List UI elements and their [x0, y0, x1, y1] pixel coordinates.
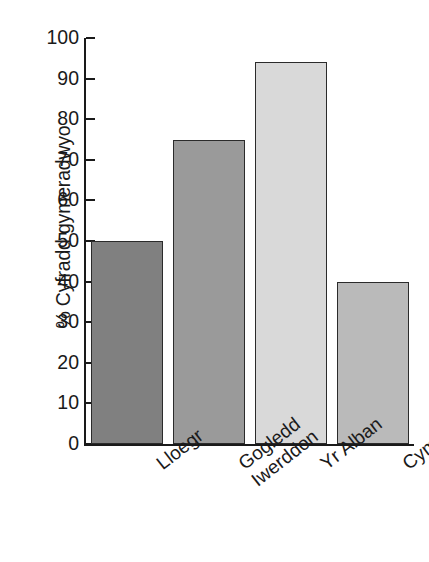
y-tick-label: 100 [46, 28, 79, 48]
y-tick-label: 60 [57, 191, 79, 211]
y-tick-label: 20 [57, 353, 79, 373]
x-tick-label: Yr Alban [317, 458, 330, 474]
y-tick-mark [86, 118, 95, 120]
x-tick-label: GogleddIwerddon [235, 458, 260, 490]
bar-chart-figure: % Cyfradd gymeradwyo 0102030405060708090… [0, 0, 429, 562]
plot-area: 0102030405060708090100 LloegrGogleddIwer… [86, 38, 414, 444]
x-tick-label: Cymru [399, 458, 412, 474]
y-tick-mark [86, 78, 95, 80]
bar [91, 241, 163, 444]
y-tick-label: 0 [68, 434, 79, 454]
y-tick-label: 70 [57, 150, 79, 170]
y-tick-mark [86, 37, 95, 39]
y-tick-label: 30 [57, 312, 79, 332]
y-tick-label: 90 [57, 69, 79, 89]
y-tick-100: 100 [86, 37, 95, 39]
y-tick-70: 70 [86, 159, 95, 161]
y-tick-mark [86, 199, 95, 201]
bar [255, 62, 327, 444]
y-tick-label: 80 [57, 109, 79, 129]
y-tick-80: 80 [86, 118, 95, 120]
y-tick-mark [86, 159, 95, 161]
bar [173, 140, 245, 445]
x-tick-label: Lloegr [153, 458, 166, 474]
y-tick-90: 90 [86, 78, 95, 80]
y-tick-label: 50 [57, 231, 79, 251]
y-tick-label: 10 [57, 394, 79, 414]
y-axis-line [84, 38, 86, 446]
y-tick-60: 60 [86, 199, 95, 201]
y-tick-label: 40 [57, 272, 79, 292]
